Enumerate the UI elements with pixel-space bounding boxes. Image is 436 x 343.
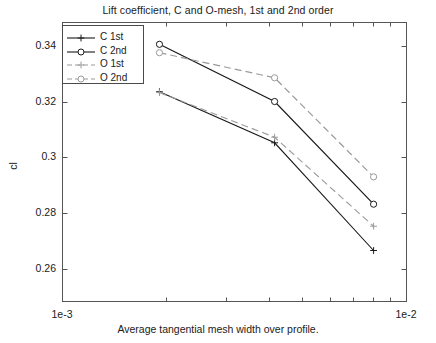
legend-item-c-2nd[interactable]: C 2nd	[63, 46, 145, 59]
y-tick-label: 0.3	[16, 150, 56, 162]
series-line	[159, 93, 373, 227]
legend-swatch	[65, 46, 97, 58]
y-tick-label: 0.26	[16, 262, 56, 274]
legend-swatch	[65, 32, 97, 44]
x-axis-label: Average tangential mesh width over profi…	[0, 323, 436, 335]
data-point-marker	[272, 75, 278, 81]
legend-item-label: C 2nd	[100, 45, 127, 56]
data-point-marker	[370, 201, 376, 207]
series-line	[159, 44, 373, 204]
legend-item-label: C 1st	[100, 31, 123, 42]
legend-item-o-2nd[interactable]: O 2nd	[63, 73, 145, 86]
y-tick-label: 0.28	[16, 206, 56, 218]
data-point-marker	[156, 50, 162, 56]
legend-box[interactable]: C 1stC 2ndO 1stO 2nd	[62, 25, 144, 84]
series-o-2nd	[156, 50, 376, 180]
legend-swatch	[65, 73, 97, 85]
figure-canvas: Lift coefficient, C and O-mesh, 1st and …	[0, 0, 436, 343]
y-tick-label: 0.32	[16, 95, 56, 107]
y-tick-label: 0.34	[16, 39, 56, 51]
legend-swatch	[65, 59, 97, 71]
legend-item-c-1st[interactable]: C 1st	[63, 32, 145, 45]
series-line	[159, 53, 373, 177]
series-c-1st	[156, 88, 377, 254]
series-o-1st	[156, 89, 377, 229]
x-tick-label: 1e-2	[383, 308, 429, 320]
series-c-2nd	[156, 41, 376, 207]
legend-item-label: O 1st	[100, 58, 124, 69]
x-tick-label: 1e-3	[39, 308, 85, 320]
data-point-marker	[156, 41, 162, 47]
legend-item-label: O 2nd	[100, 72, 127, 83]
legend-item-o-1st[interactable]: O 1st	[63, 59, 145, 72]
data-point-marker	[370, 174, 376, 180]
data-point-marker	[272, 98, 278, 104]
